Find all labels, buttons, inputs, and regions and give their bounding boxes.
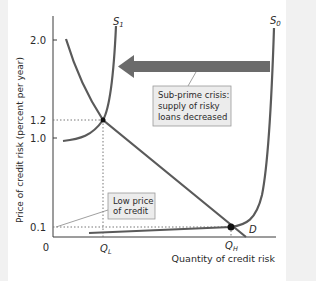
y-label-2-0: 2.0 bbox=[30, 35, 46, 46]
s0-label: S0 bbox=[270, 15, 281, 28]
y-label-0-1: 0.1 bbox=[30, 222, 46, 233]
y-label-1-2: 1.2 bbox=[30, 115, 46, 126]
shift-arrow-body bbox=[132, 61, 270, 72]
s1-label: S1 bbox=[113, 16, 124, 29]
crisis-callout-line-3: loans decreased bbox=[158, 112, 227, 122]
y-label-1-0: 1.0 bbox=[30, 133, 46, 144]
x-axis-title: Quantity of credit risk bbox=[172, 253, 276, 264]
shift-arrow-head bbox=[118, 55, 134, 78]
low-price-callout-line-2: of credit bbox=[113, 206, 149, 216]
x-label-qh: QH bbox=[225, 240, 238, 253]
low-price-callout-leader bbox=[56, 210, 108, 227]
y-axis-title: Price of credit risk (percent per year) bbox=[15, 57, 25, 223]
crisis-callout-line-1: Sub-prime crisis: bbox=[158, 90, 229, 100]
equilibrium-point-before bbox=[228, 224, 235, 231]
crisis-callout-leader bbox=[188, 72, 196, 86]
crisis-callout-line-2: supply of risky bbox=[158, 101, 220, 111]
origin-label: 0 bbox=[43, 242, 49, 253]
equilibrium-point-after bbox=[101, 118, 106, 123]
d-label: D bbox=[249, 224, 257, 235]
supply-demand-chart: 2.0 1.2 1.0 0.1 0 Price of credit risk (… bbox=[0, 0, 316, 281]
x-label-ql: QL bbox=[100, 243, 112, 256]
low-price-callout-line-1: Low price bbox=[113, 196, 154, 206]
